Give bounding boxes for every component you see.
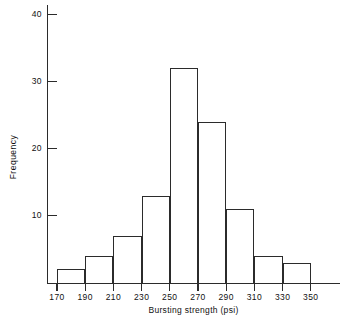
y-tick-label-40: 40 — [0, 9, 42, 19]
y-tick-label-30: 30 — [0, 76, 42, 86]
histogram-bar — [170, 68, 198, 282]
y-axis-line — [47, 5, 48, 284]
x-tick-210 — [113, 283, 114, 291]
x-tick-330 — [282, 283, 283, 291]
y-axis-title: Frequency — [8, 112, 18, 202]
x-tick-190 — [85, 283, 86, 291]
x-tick-170 — [56, 283, 57, 291]
y-tick-40 — [48, 14, 57, 15]
histogram-bar — [198, 122, 226, 283]
y-tick-label-20: 20 — [0, 143, 42, 153]
x-tick-290 — [226, 283, 227, 291]
x-tick-270 — [197, 283, 198, 291]
x-tick-310 — [254, 283, 255, 291]
x-axis-line — [47, 283, 340, 284]
histogram-bar — [113, 236, 141, 283]
histogram-bar — [142, 196, 170, 283]
histogram-bar — [57, 269, 85, 282]
x-tick-230 — [141, 283, 142, 291]
x-tick-250 — [169, 283, 170, 291]
histogram-bar — [85, 256, 113, 283]
histogram-bar — [254, 256, 282, 283]
x-tick-350 — [310, 283, 311, 291]
histogram-bar — [283, 263, 311, 283]
x-tick-label-350: 350 — [291, 292, 331, 302]
histogram-bar — [226, 209, 254, 283]
y-tick-label-10: 10 — [0, 210, 42, 220]
y-tick-30 — [48, 81, 57, 82]
y-tick-10 — [48, 215, 57, 216]
x-axis-title: Bursting strength (psi) — [47, 305, 340, 315]
y-tick-20 — [48, 148, 57, 149]
plot-area: 10203040 170190210230250270290310330350 … — [0, 0, 349, 321]
histogram-figure: 10203040 170190210230250270290310330350 … — [0, 0, 349, 321]
